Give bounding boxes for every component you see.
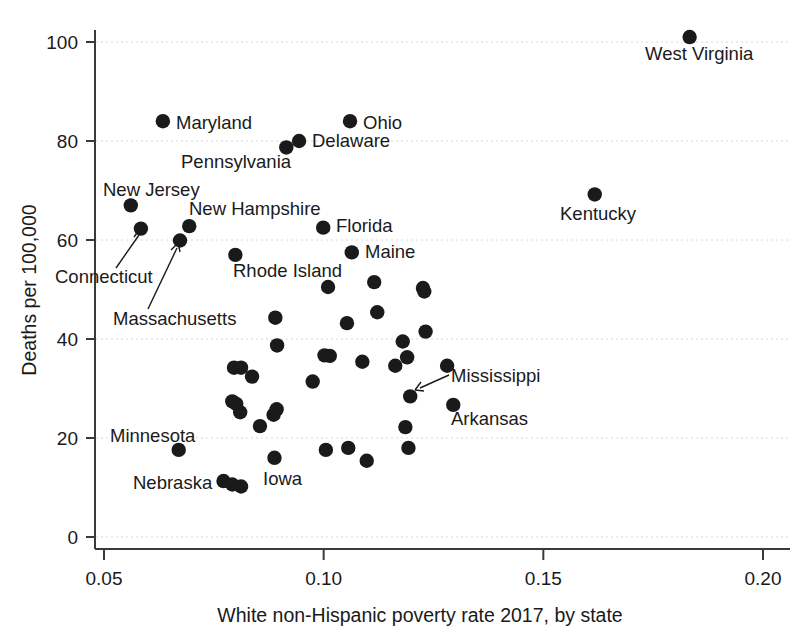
leader-arrowhead-mississippi xyxy=(415,382,421,390)
x-tick-label-0.15: 0.15 xyxy=(525,568,562,589)
label-new-hampshire: New Hampshire xyxy=(189,198,321,219)
label-connecticut: Connecticut xyxy=(55,266,153,287)
x-tick-label-0.20: 0.20 xyxy=(745,568,782,589)
data-point-iowa xyxy=(267,451,281,465)
y-tick-label-60: 60 xyxy=(57,230,78,251)
label-rhode-island: Rhode Island xyxy=(233,260,342,281)
data-point-new-jersey xyxy=(124,198,138,212)
data-point-new-hampshire xyxy=(182,219,196,233)
label-iowa: Iowa xyxy=(263,468,303,489)
data-point xyxy=(360,454,374,468)
y-tick-label-80: 80 xyxy=(57,131,78,152)
label-maryland: Maryland xyxy=(176,112,252,133)
label-florida: Florida xyxy=(336,215,393,236)
data-point xyxy=(418,324,432,338)
data-point-florida xyxy=(316,220,330,234)
leader-line-mississippi xyxy=(420,375,449,388)
y-tick-label-40: 40 xyxy=(57,329,78,350)
data-point-delaware xyxy=(292,134,306,148)
data-point xyxy=(268,311,282,325)
data-point xyxy=(270,338,284,352)
label-arkansas: Arkansas xyxy=(451,408,528,429)
data-point xyxy=(396,334,410,348)
y-tick-label-0: 0 xyxy=(67,527,78,548)
data-point-kentucky xyxy=(588,187,602,201)
y-axis-ticks-group: 020406080100 xyxy=(46,32,95,548)
data-point xyxy=(355,355,369,369)
data-point xyxy=(305,374,319,388)
data-point xyxy=(234,479,248,493)
data-point xyxy=(417,284,431,298)
data-point xyxy=(398,420,412,434)
data-point xyxy=(253,419,267,433)
data-point-ohio xyxy=(343,114,357,128)
data-point xyxy=(401,441,415,455)
label-nebraska: Nebraska xyxy=(133,472,213,493)
data-point xyxy=(321,280,335,294)
plot-canvas: 020406080100 0.050.100.150.20 Deaths per… xyxy=(0,0,798,644)
data-point xyxy=(245,369,259,383)
y-tick-label-20: 20 xyxy=(57,428,78,449)
x-axis-title: White non-Hispanic poverty rate 2017, by… xyxy=(217,604,622,626)
label-massachusetts: Massachusetts xyxy=(113,308,236,329)
data-point xyxy=(319,443,333,457)
label-kentucky: Kentucky xyxy=(560,203,637,224)
data-point xyxy=(367,275,381,289)
data-point xyxy=(233,405,247,419)
label-minnesota: Minnesota xyxy=(110,425,196,446)
label-delaware: Delaware xyxy=(312,130,390,151)
data-point-mississippi xyxy=(403,389,417,403)
data-point xyxy=(266,408,280,422)
data-point xyxy=(340,316,354,330)
data-point xyxy=(323,349,337,363)
label-maine: Maine xyxy=(365,241,415,262)
data-point xyxy=(341,441,355,455)
data-point-maryland xyxy=(156,114,170,128)
y-axis-title: Deaths per 100,000 xyxy=(18,204,40,375)
leader-arrowhead2-mississippi xyxy=(415,390,424,391)
label-mississippi: Mississippi xyxy=(451,365,540,386)
label-new-jersey: New Jersey xyxy=(103,179,200,200)
scatter-plot-figure: 020406080100 0.050.100.150.20 Deaths per… xyxy=(0,0,798,644)
data-point xyxy=(400,350,414,364)
x-tick-label-0.10: 0.10 xyxy=(305,568,342,589)
x-axis-ticks-group: 0.050.100.150.20 xyxy=(86,549,782,589)
y-tick-label-100: 100 xyxy=(46,32,78,53)
data-point xyxy=(370,305,384,319)
label-pennsylvania: Pennsylvania xyxy=(181,151,292,172)
label-west-virginia: West Virginia xyxy=(645,43,754,64)
data-point xyxy=(388,359,402,373)
x-tick-label-0.05: 0.05 xyxy=(86,568,123,589)
data-point-maine xyxy=(345,245,359,259)
